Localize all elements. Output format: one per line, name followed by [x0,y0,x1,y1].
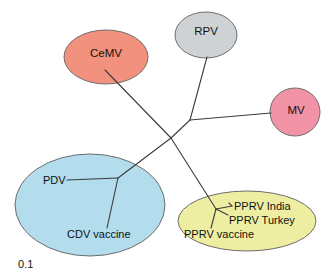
taxon-label-pprv-india: PPRV India [234,200,292,212]
branch-center-to-cemv [105,70,171,138]
taxon-label-pprv-vaccine: PPRV vaccine [184,228,254,240]
taxon-label-cdv-vaccine: CDV vaccine [67,228,131,240]
clade-label-rpv: RPV [194,25,218,37]
branch-center-to-rpvmv-node [171,120,190,138]
clade-label-mv: MV [287,104,305,116]
phylogenetic-tree-figure: CeMVRPVMV PDVCDV vaccinePPRV IndiaPPRV T… [0,0,333,277]
clade-label-cemv: CeMV [90,47,122,59]
tree-canvas: CeMVRPVMV PDVCDV vaccinePPRV IndiaPPRV T… [0,0,333,277]
taxon-label-pdv: PDV [43,174,66,186]
taxon-label-pprv-turkey: PPRV Turkey [229,214,295,226]
scale-bar-label: 0.1 [18,258,33,270]
branch-rpvmv-node-to-mv [190,113,271,120]
clade-ellipse-pdv-cdv [15,154,165,256]
branch-rpvmv-node-to-rpv [190,57,207,120]
branch-center-to-pprv-node [171,138,216,209]
